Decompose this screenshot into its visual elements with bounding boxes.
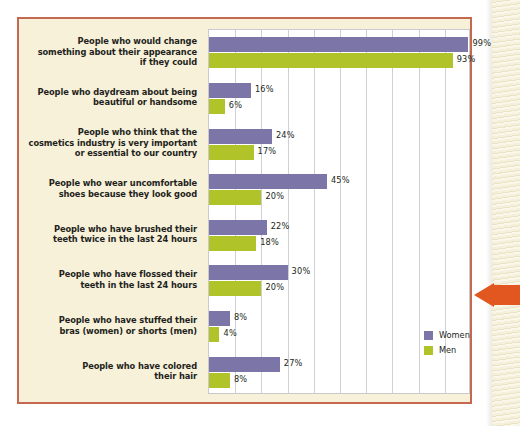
bar-group: 22%18% <box>209 220 469 252</box>
bar-women <box>209 265 288 280</box>
bar-row: 93% <box>209 53 469 68</box>
bar-group: 45%20% <box>209 174 469 206</box>
bar-women <box>209 311 230 326</box>
bar-women <box>209 174 327 189</box>
bar-value-label: 20% <box>265 282 284 292</box>
bar-row: 8% <box>209 373 469 388</box>
bar-women <box>209 357 280 372</box>
bar-row: 22% <box>209 220 469 235</box>
category-label: People who wear uncomfortableshoes becau… <box>19 178 197 199</box>
category-label-line: their hair <box>19 371 197 382</box>
bar-group: 30%20% <box>209 265 469 297</box>
category-label-column: People who would changesomething about t… <box>19 19 205 406</box>
bar-row: 99% <box>209 37 469 52</box>
bar-men <box>209 281 261 296</box>
category-label-line: teeth in the last 24 hours <box>19 280 197 291</box>
bar-men <box>209 327 219 342</box>
bar-value-label: 6% <box>229 100 242 110</box>
bar-row: 30% <box>209 265 469 280</box>
category-label-line: teeth twice in the last 24 hours <box>19 234 197 245</box>
bar-value-label: 8% <box>234 374 247 384</box>
legend-swatch-women-icon <box>424 331 433 340</box>
bar-value-label: 27% <box>284 358 303 368</box>
bar-row: 20% <box>209 190 469 205</box>
legend-label-men: Men <box>439 345 456 355</box>
category-label-line: People who would change <box>19 36 197 47</box>
category-label-line: People who wear uncomfortable <box>19 178 197 189</box>
category-label: People who would changesomething about t… <box>19 36 197 68</box>
legend-label-women: Women <box>439 330 470 340</box>
bar-men <box>209 53 453 68</box>
category-label-line: People who have brushed their <box>19 224 197 235</box>
bar-value-label: 18% <box>260 237 279 247</box>
bar-men <box>209 99 225 114</box>
bar-value-label: 93% <box>457 54 476 64</box>
category-label-line: cosmetics industry is very important <box>19 138 197 149</box>
pointer-arrow-icon <box>474 283 520 307</box>
bar-value-label: 99% <box>472 38 491 48</box>
category-label-line: People who think that the <box>19 127 197 138</box>
bar-row: 18% <box>209 236 469 251</box>
page-gutter-texture <box>492 0 520 426</box>
category-label: People who have flossed theirteeth in th… <box>19 269 197 290</box>
bar-women <box>209 37 468 52</box>
category-label-line: beautiful or handsome <box>19 97 197 108</box>
category-label: People who have stuffed theirbras (women… <box>19 315 197 336</box>
legend-item-women: Women <box>424 330 484 340</box>
category-label-line: People who have colored <box>19 361 197 372</box>
bar-row: 8% <box>209 311 469 326</box>
bar-men <box>209 373 230 388</box>
category-label: People who think that thecosmetics indus… <box>19 127 197 159</box>
pointer-arrow-tail-icon <box>493 285 520 305</box>
bar-men <box>209 236 256 251</box>
category-label-line: bras (women) or shorts (men) <box>19 326 197 337</box>
bar-row: 17% <box>209 145 469 160</box>
category-label-line: People who have flossed their <box>19 269 197 280</box>
bar-row: 45% <box>209 174 469 189</box>
bar-value-label: 20% <box>265 191 284 201</box>
bar-men <box>209 190 261 205</box>
bar-value-label: 4% <box>223 328 236 338</box>
bar-value-label: 45% <box>331 175 350 185</box>
bar-row: 6% <box>209 99 469 114</box>
category-label: People who daydream about beingbeautiful… <box>19 87 197 108</box>
bar-row: 24% <box>209 129 469 144</box>
category-label-line: People who have stuffed their <box>19 315 197 326</box>
legend-swatch-men-icon <box>424 346 433 355</box>
plot-area: 99%93%16%6%24%17%45%20%22%18%30%20%8%4%2… <box>208 29 470 394</box>
bar-value-label: 22% <box>271 221 290 231</box>
bar-value-label: 30% <box>292 266 311 276</box>
bar-group: 99%93% <box>209 37 469 69</box>
bar-value-label: 16% <box>255 84 274 94</box>
category-label: People who have coloredtheir hair <box>19 361 197 382</box>
bar-men <box>209 145 254 160</box>
bar-women <box>209 83 251 98</box>
category-label-line: something about their appearance <box>19 47 197 58</box>
bar-group: 16%6% <box>209 83 469 115</box>
bar-group: 24%17% <box>209 129 469 161</box>
legend-item-men: Men <box>424 345 484 355</box>
bar-women <box>209 220 267 235</box>
category-label-line: or essential to our country <box>19 148 197 159</box>
category-label: People who have brushed theirteeth twice… <box>19 224 197 245</box>
bar-row: 16% <box>209 83 469 98</box>
pointer-arrow-head-icon <box>474 283 494 307</box>
bar-value-label: 24% <box>276 130 295 140</box>
category-label-line: shoes because they look good <box>19 189 197 200</box>
bar-women <box>209 129 272 144</box>
chart-legend: Women Men <box>424 330 484 360</box>
bar-row: 20% <box>209 281 469 296</box>
bar-value-label: 8% <box>234 312 247 322</box>
category-label-line: if they could <box>19 57 197 68</box>
category-label-line: People who daydream about being <box>19 87 197 98</box>
bar-group: 27%8% <box>209 357 469 389</box>
chart-panel: People who would changesomething about t… <box>17 17 472 404</box>
scan-page: People who would changesomething about t… <box>0 0 520 426</box>
bar-value-label: 17% <box>258 146 277 156</box>
